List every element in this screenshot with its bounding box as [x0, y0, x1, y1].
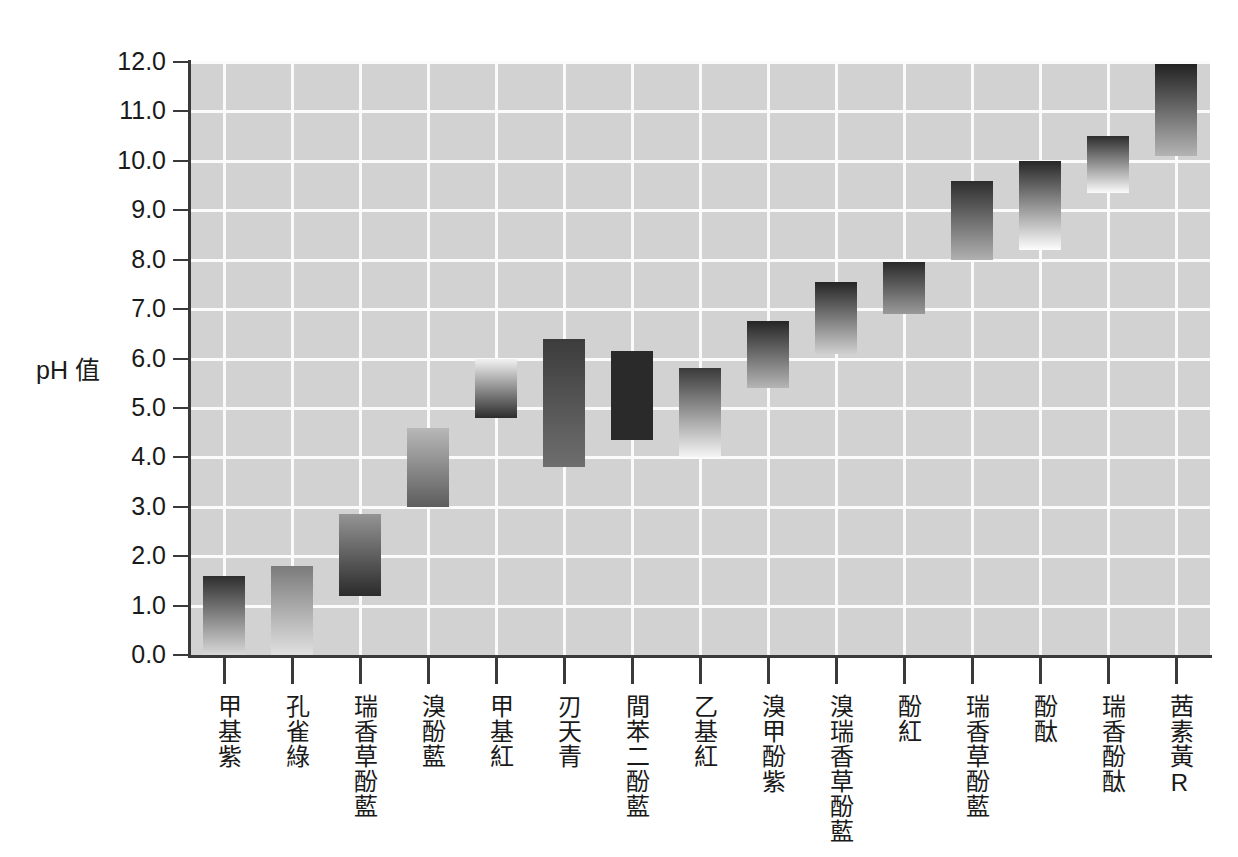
x-tick-mark [1107, 658, 1110, 684]
y-tick-label: 10.0 [117, 148, 166, 173]
bar-range [951, 181, 993, 260]
gridline-vertical [223, 62, 226, 655]
ph-indicator-range-chart: pH 值 0.01.02.03.04.05.06.07.08.09.010.01… [0, 0, 1238, 857]
y-tick-mark [173, 160, 189, 162]
gridline-vertical [971, 62, 974, 655]
y-tick-mark [173, 555, 189, 557]
x-tick-label: 甲基紅 [479, 694, 513, 769]
y-tick-mark [173, 61, 189, 63]
y-tick-mark [173, 259, 189, 261]
x-tick-mark [971, 658, 974, 684]
x-tick-mark [291, 658, 294, 684]
bar-range [1019, 161, 1061, 250]
gridline-vertical [835, 62, 838, 655]
x-tick-mark [1039, 658, 1042, 684]
y-tick-label: 5.0 [131, 395, 166, 420]
x-tick-mark [767, 658, 770, 684]
y-axis-title: pH 值 [36, 358, 100, 383]
bar-range [475, 359, 517, 418]
x-tick-mark [835, 658, 838, 684]
bar-range [203, 576, 245, 655]
y-tick-label: 11.0 [119, 98, 166, 123]
y-tick-mark [173, 654, 189, 656]
bar-range [339, 514, 381, 596]
x-tick-label: 茜素黃R [1159, 694, 1193, 797]
y-tick-mark [173, 407, 189, 409]
y-tick-mark [173, 358, 189, 360]
gridline-vertical [699, 62, 702, 655]
y-tick-mark [173, 209, 189, 211]
x-tick-mark [427, 658, 430, 684]
bar-range [611, 351, 653, 440]
y-tick-label: 4.0 [131, 444, 166, 469]
x-tick-mark [631, 658, 634, 684]
x-tick-label: 酚酞 [1023, 694, 1057, 744]
y-tick-label: 12.0 [117, 49, 166, 74]
y-tick-label: 2.0 [131, 543, 166, 568]
y-tick-label: 7.0 [131, 296, 166, 321]
bar-range [747, 321, 789, 388]
y-tick-mark [173, 605, 189, 607]
y-tick-label: 1.0 [131, 593, 166, 618]
x-tick-label: 瑞香酚酞 [1091, 694, 1125, 794]
gridline-vertical [1039, 62, 1042, 655]
gridline-vertical [427, 62, 430, 655]
bar-range [883, 262, 925, 314]
x-tick-mark [223, 658, 226, 684]
x-tick-mark [903, 658, 906, 684]
x-tick-label: 間苯二酚藍 [615, 694, 649, 819]
bar-range [407, 428, 449, 507]
x-tick-mark [495, 658, 498, 684]
x-tick-mark [563, 658, 566, 684]
y-tick-label: 6.0 [131, 346, 166, 371]
x-tick-label: 孔雀綠 [275, 694, 309, 769]
y-tick-label: 0.0 [131, 642, 166, 667]
y-tick-mark [173, 110, 189, 112]
x-tick-label: 乙基紅 [683, 694, 717, 769]
bar-range [1155, 64, 1197, 155]
x-tick-label: 溴甲酚紫 [751, 694, 785, 794]
bar-range [1087, 136, 1129, 193]
x-tick-label: 酚紅 [887, 694, 921, 744]
gridline-vertical [903, 62, 906, 655]
bar-range [679, 368, 721, 457]
x-tick-label: 甲基紫 [207, 694, 241, 769]
x-tick-label: 刃天青 [547, 694, 581, 769]
x-tick-mark [1175, 658, 1178, 684]
y-tick-mark [173, 456, 189, 458]
bar-range [815, 282, 857, 354]
y-tick-label: 9.0 [131, 197, 166, 222]
y-tick-label: 8.0 [131, 247, 166, 272]
y-tick-label: 3.0 [131, 494, 166, 519]
x-tick-label: 瑞香草酚藍 [343, 694, 377, 819]
x-tick-label: 溴瑞香草酚藍 [819, 694, 853, 844]
x-tick-label: 瑞香草酚藍 [955, 694, 989, 819]
y-tick-mark [173, 506, 189, 508]
x-tick-label: 溴酚藍 [411, 694, 445, 769]
bar-range [271, 566, 313, 655]
x-tick-mark [699, 658, 702, 684]
bar-range [543, 339, 585, 467]
y-tick-mark [173, 308, 189, 310]
x-tick-mark [359, 658, 362, 684]
plot-area [190, 62, 1210, 655]
